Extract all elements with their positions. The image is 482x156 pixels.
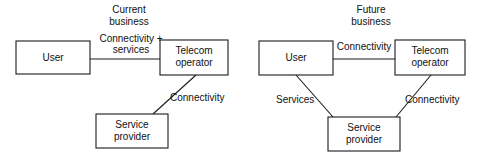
node-future-user-label: User bbox=[285, 52, 307, 63]
panel-title-future-line2: business bbox=[351, 16, 390, 27]
node-current-service-provider-label-line2: provider bbox=[114, 131, 151, 142]
edge-label-current-telecom-to-provider: Connectivity bbox=[170, 92, 224, 103]
node-current-user[interactable]: User bbox=[16, 41, 90, 74]
panel-title-current-line2: business bbox=[109, 16, 148, 27]
node-future-service-provider[interactable]: Service provider bbox=[328, 117, 400, 151]
panel-current-business: Current business Connectivity + services… bbox=[16, 4, 228, 148]
panel-future-business: Future business Connectivity Services Co… bbox=[259, 4, 465, 151]
node-current-service-provider[interactable]: Service provider bbox=[96, 114, 168, 148]
node-future-telecom-operator-label-line1: Telecom bbox=[411, 45, 448, 56]
panel-title-current-line1: Current bbox=[112, 4, 146, 15]
diagram-root: Current business Connectivity + services… bbox=[0, 0, 482, 156]
panel-title-future-line1: Future bbox=[357, 4, 386, 15]
edge-label-future-user-to-telecom: Connectivity bbox=[337, 41, 391, 52]
node-future-service-provider-label-line1: Service bbox=[347, 122, 381, 133]
node-current-telecom-operator-label-line2: operator bbox=[175, 57, 213, 68]
node-future-service-provider-label-line2: provider bbox=[346, 134, 383, 145]
node-future-user[interactable]: User bbox=[259, 41, 333, 75]
edge-label-future-user-to-provider: Services bbox=[276, 94, 314, 105]
edge-label-future-telecom-to-provider: Connectivity bbox=[405, 94, 459, 105]
edge-label-current-user-to-telecom-line2: services bbox=[113, 44, 150, 55]
node-future-telecom-operator-label-line2: operator bbox=[411, 57, 449, 68]
node-future-telecom-operator[interactable]: Telecom operator bbox=[395, 40, 465, 75]
node-current-telecom-operator[interactable]: Telecom operator bbox=[160, 40, 228, 75]
edge-label-current-user-to-telecom-line1: Connectivity + bbox=[99, 33, 162, 44]
node-current-user-label: User bbox=[42, 52, 64, 63]
node-current-telecom-operator-label-line1: Telecom bbox=[175, 45, 212, 56]
node-current-service-provider-label-line1: Service bbox=[115, 119, 149, 130]
business-model-diagram: Current business Connectivity + services… bbox=[0, 0, 482, 156]
